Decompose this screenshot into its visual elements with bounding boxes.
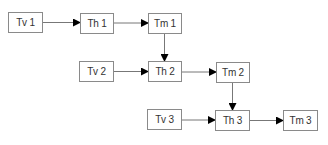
node-tm2: Tm 2 bbox=[216, 62, 250, 83]
node-th2: Th 2 bbox=[148, 61, 182, 82]
node-label: Th 1 bbox=[87, 18, 106, 29]
node-tv3: Tv 3 bbox=[147, 109, 182, 130]
node-label: Tm 1 bbox=[154, 18, 176, 29]
node-label: Th 3 bbox=[223, 115, 242, 126]
node-th3: Th 3 bbox=[215, 110, 250, 131]
node-tv1: Tv 1 bbox=[8, 12, 43, 33]
node-tv2: Tv 2 bbox=[79, 61, 114, 82]
node-tm1: Tm 1 bbox=[148, 13, 182, 34]
node-label: Tm 3 bbox=[290, 115, 312, 126]
node-label: Tv 1 bbox=[16, 17, 35, 28]
flow-diagram: Tv 1 Th 1 Tm 1 Tv 2 Th 2 Tm 2 Tv 3 Th 3 … bbox=[0, 0, 328, 145]
node-label: Th 2 bbox=[155, 66, 174, 77]
node-label: Tv 3 bbox=[155, 114, 174, 125]
node-th1: Th 1 bbox=[80, 13, 114, 34]
node-label: Tv 2 bbox=[87, 66, 106, 77]
node-label: Tm 2 bbox=[222, 67, 244, 78]
node-tm3: Tm 3 bbox=[283, 110, 318, 131]
